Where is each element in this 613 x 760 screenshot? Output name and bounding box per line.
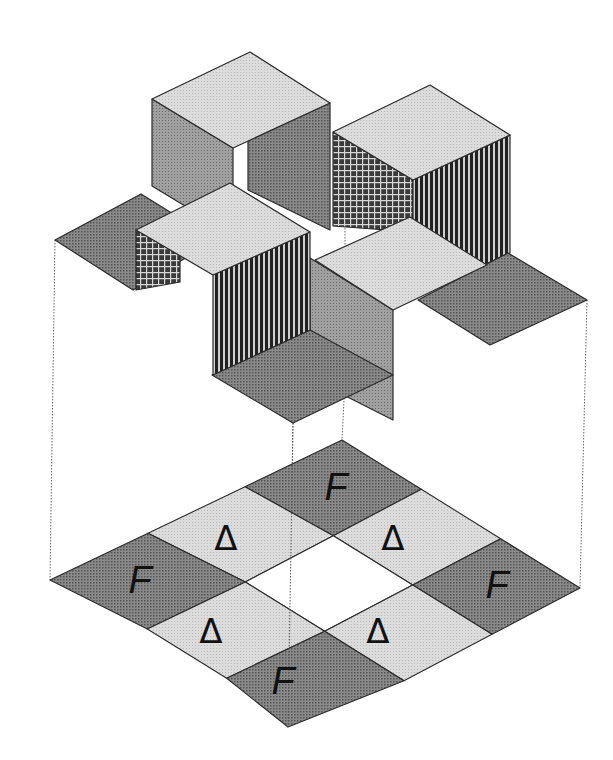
label-lower-right: Δ: [366, 611, 389, 651]
projection-line-right: [580, 300, 587, 588]
label-upper-right: Δ: [381, 518, 404, 558]
upper-structure: [55, 52, 587, 423]
label-upper-left: Δ: [214, 518, 237, 558]
label-lower-left: Δ: [199, 611, 222, 651]
isometric-diagram: F Δ Δ F F Δ Δ F: [0, 0, 613, 760]
label-right: F: [485, 564, 510, 606]
label-bottom: F: [271, 660, 296, 702]
label-left: F: [128, 559, 153, 601]
label-top: F: [324, 466, 349, 508]
projection-line-left: [50, 240, 55, 580]
